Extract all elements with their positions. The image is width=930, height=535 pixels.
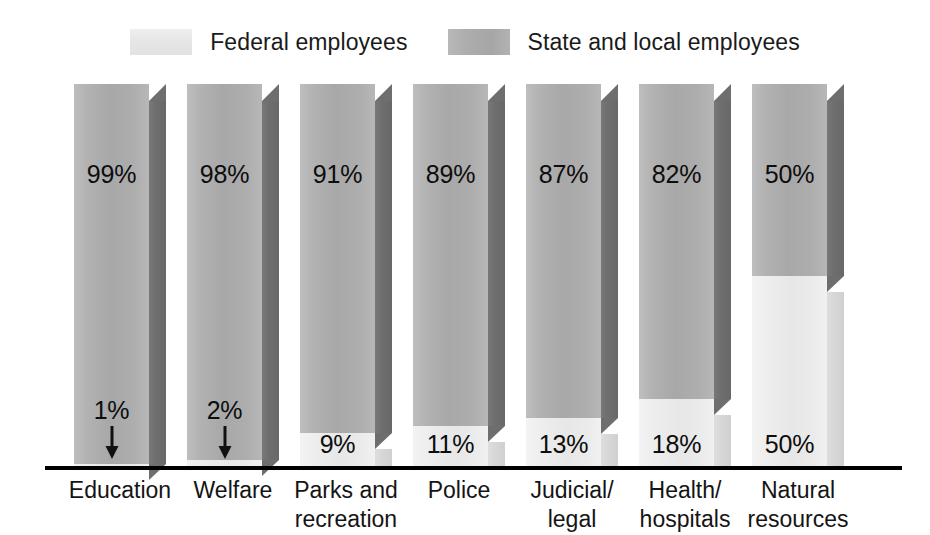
bar-education-stack: 99%1% (74, 84, 166, 468)
bar-police-label-state-local: 89% (413, 160, 488, 189)
bar-education[interactable]: 99%1% (74, 67, 166, 535)
bar-police-side-face-federal (488, 442, 505, 468)
bar-parks-and-recreation-label-state-local: 91% (300, 160, 375, 189)
bar-health-hospitals-label-state-local: 82% (639, 160, 714, 189)
bar-judicial-legal-segment-state-local (526, 84, 601, 418)
bar-welfare-top-bevel (262, 84, 279, 101)
bar-welfare-callout-arrow-icon (187, 426, 262, 460)
bar-health-hospitals-top-bevel (714, 84, 731, 101)
x-axis-label-line2: resources (723, 505, 873, 534)
bar-judicial-legal-label-federal: 13% (526, 430, 601, 459)
bar-police-side-face-state-local (488, 101, 505, 426)
bar-education-side-face-state-local (149, 101, 166, 464)
bar-parks-and-recreation-top-bevel (375, 84, 392, 101)
bar-judicial-legal-label-state-local: 87% (526, 160, 601, 189)
bar-health-hospitals-side-face-state-local (714, 101, 731, 399)
bar-judicial-legal-side-face-federal (601, 434, 618, 468)
bar-health-hospitals-side-face-bevel (714, 399, 731, 415)
bar-police-label-federal: 11% (413, 430, 488, 459)
bar-education-label-federal: 1% (74, 396, 149, 425)
stacked-bar-chart: Federal employees State and local employ… (0, 0, 930, 535)
bar-parks-and-recreation-segment-state-local (300, 84, 375, 433)
bar-welfare-side-face-state-local (262, 101, 279, 460)
bar-judicial-legal-top-bevel (601, 84, 618, 101)
x-axis-label-line2: recreation (271, 505, 421, 534)
x-axis-label-natural-resources: Naturalresources (723, 476, 873, 534)
bar-police[interactable]: 89%11% (413, 67, 505, 535)
bar-judicial-legal-side-face-bevel (601, 418, 618, 434)
bar-natural-resources-side-face-bevel (827, 276, 844, 292)
bar-education-callout-arrow-icon (74, 426, 149, 460)
bar-welfare-stack: 98%2% (187, 84, 279, 468)
bar-judicial-legal-side-face-state-local (601, 101, 618, 418)
bar-education-label-state-local: 99% (74, 160, 149, 189)
bar-welfare[interactable]: 98%2% (187, 67, 279, 535)
bar-health-hospitals-stack: 82%18% (639, 84, 731, 468)
bar-parks-and-recreation-side-face-bevel (375, 433, 392, 449)
bar-natural-resources[interactable]: 50%50% (752, 67, 844, 535)
x-axis-baseline (45, 466, 902, 470)
bar-welfare-label-state-local: 98% (187, 160, 262, 189)
bar-judicial-legal[interactable]: 87%13% (526, 67, 618, 535)
bar-health-hospitals-label-federal: 18% (639, 430, 714, 459)
bar-police-stack: 89%11% (413, 84, 505, 468)
bar-parks-and-recreation-label-federal: 9% (300, 430, 375, 459)
bar-parks-and-recreation[interactable]: 91%9% (300, 67, 392, 535)
bar-police-segment-state-local (413, 84, 488, 426)
bar-health-hospitals-side-face-federal (714, 415, 731, 468)
bar-natural-resources-top-bevel (827, 84, 844, 101)
bar-natural-resources-label-state-local: 50% (752, 160, 827, 189)
x-axis-label-line1: Natural (723, 476, 873, 505)
bar-health-hospitals-segment-state-local (639, 84, 714, 399)
bar-welfare-label-federal: 2% (187, 396, 262, 425)
bar-health-hospitals[interactable]: 82%18% (639, 67, 731, 535)
bar-judicial-legal-stack: 87%13% (526, 84, 618, 468)
bar-police-side-face-bevel (488, 426, 505, 442)
plot-area: 99%1%98%2%91%9%89%11%87%13%82%18%50%50% (0, 0, 930, 535)
bar-natural-resources-side-face-federal (827, 292, 844, 468)
bar-education-top-bevel (149, 84, 166, 101)
bar-police-top-bevel (488, 84, 505, 101)
bar-natural-resources-side-face-state-local (827, 101, 844, 276)
bar-natural-resources-stack: 50%50% (752, 84, 844, 468)
bar-parks-and-recreation-stack: 91%9% (300, 84, 392, 468)
bar-parks-and-recreation-side-face-state-local (375, 101, 392, 433)
bar-natural-resources-label-federal: 50% (752, 430, 827, 459)
